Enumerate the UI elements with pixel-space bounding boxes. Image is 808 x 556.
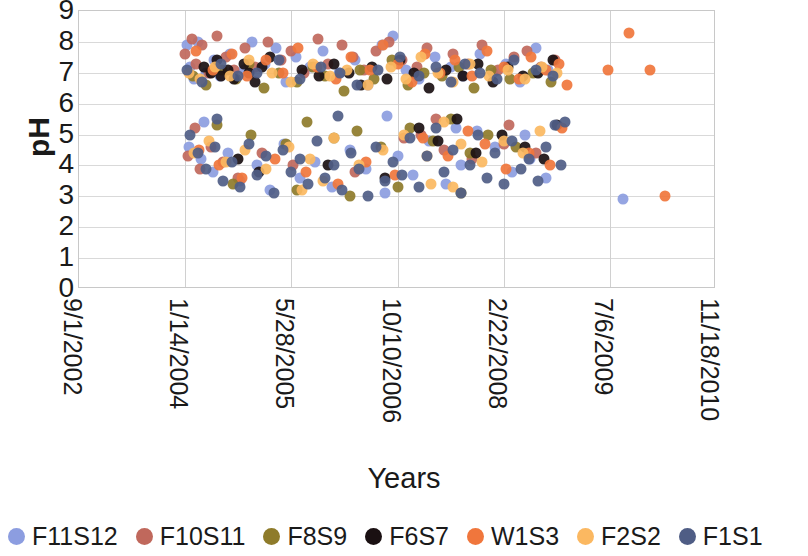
data-point [286,166,297,177]
data-point [422,151,433,162]
x-axis-tick-labels: 9/1/20021/14/20045/28/200510/10/20062/22… [0,292,808,452]
data-point [413,70,424,81]
legend-item-w1s3[interactable]: W1S3 [467,524,559,549]
data-point [269,188,280,199]
data-point [530,64,541,75]
y-tick-label: 5 [34,120,74,148]
y-tick-label: 8 [34,27,74,55]
data-point [190,46,201,57]
data-point [475,67,486,78]
y-tick-label: 1 [34,243,74,271]
legend-item-f10s11[interactable]: F10S11 [136,524,246,549]
x-tick-label: 7/6/2009 [589,298,618,395]
data-point [218,175,229,186]
data-point [373,64,384,75]
data-point [328,160,339,171]
data-point [277,145,288,156]
data-point [243,55,254,66]
legend-marker-icon [136,528,153,545]
data-point [492,73,503,84]
data-point [302,117,313,128]
data-point [294,73,305,84]
data-point [432,135,443,146]
data-point [502,64,513,75]
horizontal-gridline [79,135,714,136]
data-point [490,148,501,159]
data-point [352,126,363,137]
data-point [447,145,458,156]
data-point [503,120,514,131]
legend-label: F10S11 [160,524,246,549]
y-tick-label: 4 [34,150,74,178]
data-point [252,67,263,78]
data-point [301,166,312,177]
legend-item-f11s12[interactable]: F11S12 [8,524,118,549]
data-point [201,163,212,174]
data-point [660,191,671,202]
data-point [479,138,490,149]
data-point [555,160,566,171]
legend-item-f1s1[interactable]: F1S1 [679,524,763,549]
y-tick-label: 9 [34,0,74,24]
data-point [354,163,365,174]
data-point [396,169,407,180]
data-point [371,141,382,152]
data-point [460,58,471,69]
data-point [182,64,193,75]
legend-item-f6s7[interactable]: F6S7 [365,524,449,549]
data-point [216,58,227,69]
data-point [226,157,237,168]
data-point [337,39,348,50]
data-point [362,191,373,202]
data-point [481,46,492,57]
legend-item-f8s9[interactable]: F8S9 [263,524,347,549]
data-point [413,182,424,193]
data-point [311,135,322,146]
data-point [524,154,535,165]
data-point [464,160,475,171]
data-point [534,126,545,137]
data-point [381,73,392,84]
data-point [430,61,441,72]
data-point [197,77,208,88]
data-point [312,33,323,44]
legend-item-f2s2[interactable]: F2S2 [577,524,661,549]
data-point [405,132,416,143]
data-point [507,135,518,146]
data-point [477,157,488,168]
data-point [623,27,634,38]
data-point [294,154,305,165]
data-point [209,141,220,152]
data-point [532,175,543,186]
data-point [379,175,390,186]
x-tick-label: 5/28/2005 [270,298,299,409]
data-point [339,86,350,97]
legend-marker-icon [679,528,696,545]
data-point [560,117,571,128]
data-point [262,36,273,47]
data-point [267,67,278,78]
data-point [549,120,560,131]
y-tick-label: 6 [34,89,74,117]
data-point [273,55,284,66]
data-point [379,188,390,199]
data-point [303,178,314,189]
data-point [451,114,462,125]
data-point [449,55,460,66]
horizontal-gridline [79,42,714,43]
data-point [430,123,441,134]
data-point [541,141,552,152]
data-point [318,46,329,57]
y-axis-tick-labels: 0123456789 [34,0,74,292]
data-point [519,73,530,84]
horizontal-gridline [79,104,714,105]
data-point [324,70,335,81]
chart-legend: F11S12F10S11F8S9F6S7W1S3F2S2F1S1 [0,516,808,556]
data-point [500,163,511,174]
data-point [445,77,456,88]
legend-label: F1S1 [703,524,763,549]
data-point [337,185,348,196]
data-point [408,169,419,180]
data-point [515,163,526,174]
data-point [617,194,628,205]
